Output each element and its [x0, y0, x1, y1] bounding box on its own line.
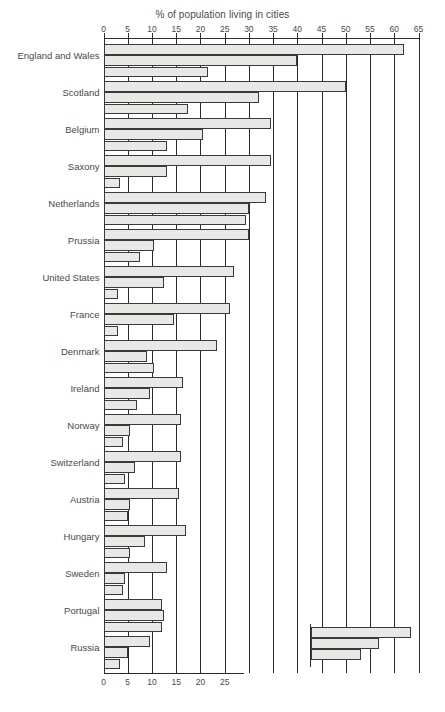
category-label-ireland: Ireland: [70, 383, 99, 394]
x-axis-line-bottom: [104, 673, 245, 674]
bar: [104, 252, 140, 263]
category-label-england-and-wales: England and Wales: [17, 50, 99, 61]
bar: [104, 488, 179, 499]
category-label-portugal: Portugal: [64, 605, 99, 616]
bar: [104, 462, 136, 473]
legend-swatch-1890: [311, 627, 411, 638]
bar: [104, 400, 138, 411]
bar: [104, 141, 167, 152]
bar: [104, 536, 145, 547]
x-tick-mark-top-50: [346, 33, 347, 39]
x-tick-mark-top-55: [370, 33, 371, 39]
legend-swatch-1850: [311, 638, 379, 649]
bar: [104, 548, 131, 559]
bar: [104, 155, 271, 166]
category-label-hungary: Hungary: [64, 531, 100, 542]
gridline-35: [273, 38, 274, 673]
bar: [104, 573, 126, 584]
bar: [104, 266, 235, 277]
bar: [104, 166, 167, 177]
bar: [104, 622, 162, 633]
chart-title: % of population living in cities: [0, 9, 445, 20]
chart-root: % of population living in cities 0510152…: [0, 0, 445, 712]
gridline-60: [394, 38, 395, 673]
x-tick-mark-top-45: [322, 33, 323, 39]
bar: [104, 377, 184, 388]
bar: [104, 229, 249, 240]
x-tick-label-bottom-5: 5: [125, 677, 130, 687]
bar: [104, 203, 249, 214]
bar: [104, 363, 155, 374]
bar: [104, 129, 203, 140]
x-tick-label-bottom-20: 20: [196, 677, 205, 687]
x-tick-label-bottom-10: 10: [147, 677, 156, 687]
bar: [104, 414, 182, 425]
bar: [104, 425, 131, 436]
category-label-sweden: Sweden: [65, 568, 99, 579]
x-tick-mark-top-0: [104, 33, 105, 39]
x-tick-mark-top-65: [419, 33, 420, 39]
legend-swatch-1800: [311, 649, 361, 660]
category-label-prussia: Prussia: [68, 235, 100, 246]
bar: [104, 277, 165, 288]
bar: [104, 104, 189, 115]
x-tick-mark-top-25: [225, 33, 226, 39]
bar: [104, 192, 266, 203]
category-label-switzerland: Switzerland: [50, 457, 99, 468]
bar: [104, 326, 119, 337]
bar: [104, 388, 150, 399]
bar: [104, 599, 162, 610]
x-tick-mark-top-30: [249, 33, 250, 39]
bar: [104, 240, 155, 251]
bar: [104, 55, 298, 66]
x-tick-mark-top-40: [297, 33, 298, 39]
bar: [104, 499, 131, 510]
bar: [104, 647, 128, 658]
x-tick-mark-top-35: [273, 33, 274, 39]
category-label-scotland: Scotland: [63, 87, 100, 98]
x-tick-mark-top-20: [200, 33, 201, 39]
bar: [104, 92, 259, 103]
x-tick-mark-top-60: [394, 33, 395, 39]
gridline-65: [419, 38, 420, 673]
bar: [104, 451, 182, 462]
bar: [104, 437, 123, 448]
category-label-norway: Norway: [67, 420, 99, 431]
bar: [104, 351, 148, 362]
gridline-40: [297, 38, 298, 673]
bar: [104, 511, 128, 522]
bar: [104, 215, 247, 226]
bar: [104, 474, 126, 485]
x-tick-mark-top-5: [128, 33, 129, 39]
x-tick-label-bottom-15: 15: [171, 677, 180, 687]
category-label-denmark: Denmark: [61, 346, 100, 357]
bar: [104, 178, 121, 189]
gridline-45: [322, 38, 323, 673]
gridline-25: [225, 38, 226, 673]
bar: [104, 562, 167, 573]
bar: [104, 118, 271, 129]
category-label-belgium: Belgium: [65, 124, 99, 135]
bar: [104, 585, 123, 596]
category-label-saxony: Saxony: [68, 161, 100, 172]
x-tick-mark-top-15: [176, 33, 177, 39]
gridline-55: [370, 38, 371, 673]
category-label-france: France: [70, 309, 100, 320]
bar: [104, 67, 208, 78]
bar: [104, 81, 346, 92]
x-tick-mark-top-10: [152, 33, 153, 39]
x-tick-label-bottom-0: 0: [101, 677, 106, 687]
bar: [104, 289, 119, 300]
x-tick-label-bottom-25: 25: [220, 677, 229, 687]
bar: [104, 659, 121, 670]
bar: [104, 636, 150, 647]
bar: [104, 314, 174, 325]
bar: [104, 44, 404, 55]
category-label-united-states: United States: [42, 272, 99, 283]
bar: [104, 525, 186, 536]
category-label-russia: Russia: [70, 642, 99, 653]
bar: [104, 303, 230, 314]
gridline-30: [249, 38, 250, 673]
category-label-austria: Austria: [70, 494, 100, 505]
bar: [104, 340, 218, 351]
